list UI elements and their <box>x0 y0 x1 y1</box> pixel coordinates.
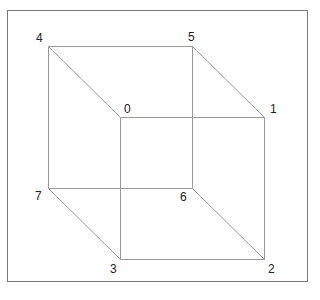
vertex-label-3: 3 <box>110 263 117 275</box>
edge-3-7 <box>49 189 121 260</box>
cube-edges <box>0 0 320 300</box>
edge-6-2 <box>193 189 265 260</box>
vertex-label-1: 1 <box>270 103 277 115</box>
vertex-label-5: 5 <box>188 31 195 43</box>
vertex-label-0: 0 <box>124 103 131 115</box>
vertex-label-2: 2 <box>268 263 275 275</box>
edge-0-4 <box>49 47 121 118</box>
vertex-label-6: 6 <box>180 191 187 203</box>
vertex-label-4: 4 <box>36 32 43 44</box>
cube-diagram: 01234567 <box>0 0 320 300</box>
vertex-label-7: 7 <box>35 190 42 202</box>
edge-5-1 <box>193 47 265 118</box>
